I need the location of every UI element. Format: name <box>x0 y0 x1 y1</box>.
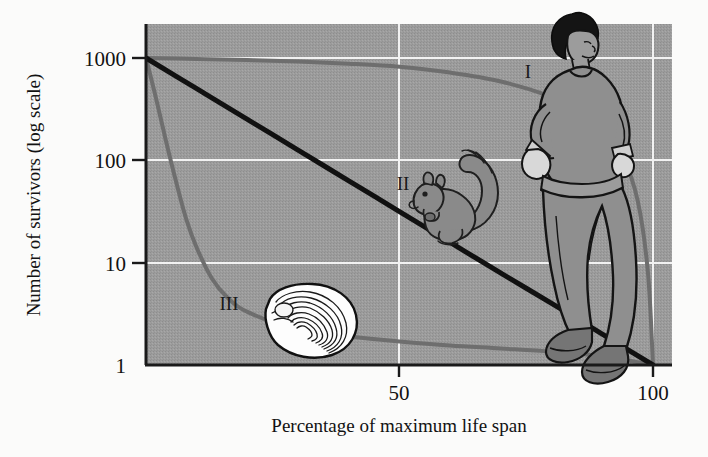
x-axis-title: Percentage of maximum life span <box>271 415 527 436</box>
curve-label-type-iii: III <box>220 293 239 314</box>
y-tick-label-1: 1 <box>116 354 127 378</box>
x-tick-label-50: 50 <box>389 381 410 405</box>
y-axis-ticks <box>132 58 146 263</box>
survivorship-curve-figure: 1000 100 10 1 50 100 Percentage of maxim… <box>0 0 708 457</box>
figure-canvas: 1000 100 10 1 50 100 Percentage of maxim… <box>0 0 708 457</box>
curve-label-type-i: I <box>525 61 531 82</box>
y-axis-title: Number of survivors (log scale) <box>23 74 45 317</box>
y-tick-label-10: 10 <box>105 252 126 276</box>
y-tick-label-1000: 1000 <box>84 47 126 71</box>
oyster-shell-illustration <box>266 284 357 358</box>
curve-label-type-ii: II <box>397 173 410 194</box>
x-tick-label-100: 100 <box>637 381 669 405</box>
y-tick-label-100: 100 <box>95 149 127 173</box>
